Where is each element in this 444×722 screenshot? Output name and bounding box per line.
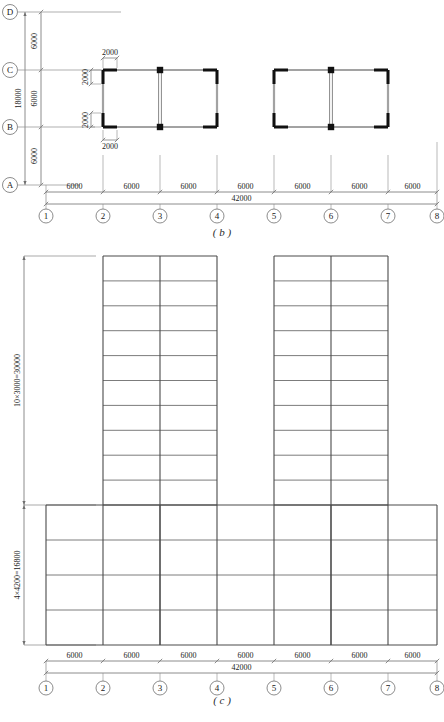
plan-axis-bubble-A-text: A: [7, 180, 14, 190]
plan-grid-bubble-3-text: 3: [158, 211, 163, 221]
elev-grid-bubble-1-text: 1: [44, 683, 49, 693]
plan-hdim-seg-label-4: 6000: [295, 182, 311, 191]
elev-vdim-tower-label: 10×3000=30000: [13, 354, 22, 407]
elev-grid-bubble-7-text: 7: [386, 683, 391, 693]
plan-vdim-seg-label-1: 6000: [30, 91, 39, 107]
elev-hdim-seg-label-1: 6000: [124, 651, 140, 660]
plan-vdim-seg-label-2: 6000: [30, 148, 39, 164]
plan-left-core-column-top: [157, 67, 163, 73]
plan-axis-bubble-B-text: B: [7, 122, 13, 132]
plan-vdim-seg-label-0: 6000: [30, 33, 39, 49]
elev-hdim-seg-label-3: 6000: [238, 651, 254, 660]
plan-vdim-total-arrow-top: [23, 12, 26, 16]
plan-right-core-outline: [274, 70, 388, 127]
elev-grid-bubble-5-text: 5: [272, 683, 277, 693]
elev-grid-bubble-4-text: 4: [215, 683, 220, 693]
plan-hdim-seg-label-6: 6000: [405, 182, 421, 191]
drawing-sheet: 18000600060006000DCBA2000200020002000600…: [0, 0, 444, 722]
elev-hdim-seg-label-5: 6000: [352, 651, 368, 660]
plan-grid-bubble-1-text: 1: [44, 211, 49, 221]
plan-vdim-total-label: 18000: [14, 89, 23, 109]
plan-grid-bubble-6-text: 6: [329, 211, 334, 221]
figure-c-caption: ( c ): [0, 694, 444, 706]
elev-vdim-tower-arrow-bot: [22, 501, 25, 505]
elev-vdim-podium-arrow-top: [22, 505, 25, 509]
plan-hdim-seg-label-5: 6000: [352, 182, 368, 191]
elev-vdim-podium-label: 4×4200=16800: [13, 550, 22, 599]
elev-hdim-seg-label-2: 6000: [181, 651, 197, 660]
elev-hdim-seg-label-4: 6000: [295, 651, 311, 660]
plan-right-core-column-bottom: [328, 124, 334, 130]
plan-grid-bubble-7-text: 7: [386, 211, 391, 221]
elev-grid-bubble-8-text: 8: [435, 683, 440, 693]
plan-right-core-column-top: [328, 67, 334, 73]
drawing-canvas: 18000600060006000DCBA2000200020002000600…: [0, 0, 444, 722]
plan-dim-lu2000-label: 2000: [81, 69, 90, 85]
elev-grid-bubble-6-text: 6: [329, 683, 334, 693]
plan-dim-top2000-label: 2000: [102, 48, 118, 57]
plan-axis-bubble-C-text: C: [7, 65, 13, 75]
plan-dim-ll2000-label: 2000: [81, 112, 90, 128]
elev-grid-bubble-2-text: 2: [101, 683, 106, 693]
plan-hdim-total-label: 42000: [232, 194, 252, 203]
plan-hdim-seg-label-0: 6000: [67, 182, 83, 191]
elev-vdim-podium-arrow-bot: [22, 641, 25, 645]
plan-hdim-seg-label-3: 6000: [238, 182, 254, 191]
plan-hdim-seg-label-2: 6000: [181, 182, 197, 191]
plan-grid-bubble-5-text: 5: [272, 211, 277, 221]
elev-hdim-seg-label-6: 6000: [405, 651, 421, 660]
elev-grid-bubble-3-text: 3: [158, 683, 163, 693]
plan-grid-bubble-2-text: 2: [101, 211, 106, 221]
plan-hdim-seg-label-1: 6000: [124, 182, 140, 191]
plan-grid-bubble-8-text: 8: [435, 211, 440, 221]
plan-axis-bubble-D-text: D: [7, 7, 14, 17]
plan-left-core-outline: [103, 70, 217, 127]
plan-left-core-column-bottom: [157, 124, 163, 130]
plan-dim-bot2000-label: 2000: [102, 142, 118, 151]
plan-grid-bubble-4-text: 4: [215, 211, 220, 221]
elev-vdim-tower-arrow-top: [22, 256, 25, 260]
elev-hdim-total-label: 42000: [232, 663, 252, 672]
plan-vdim-total-arrow-bottom: [23, 181, 26, 185]
figure-b-caption: ( b ): [0, 226, 444, 238]
elev-hdim-seg-label-0: 6000: [67, 651, 83, 660]
